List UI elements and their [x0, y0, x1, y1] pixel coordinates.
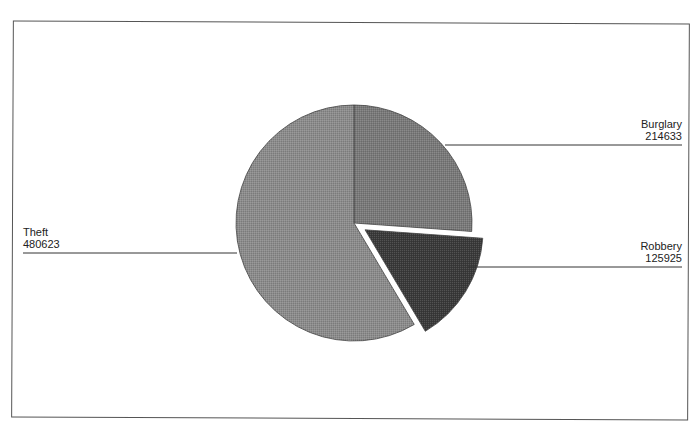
burglary-label-name: Burglary — [600, 118, 682, 130]
theft-label: Theft 480623 — [23, 226, 113, 250]
theft-label-name: Theft — [23, 226, 113, 238]
robbery-label-name: Robbery — [600, 240, 682, 252]
robbery-label: Robbery 125925 — [600, 240, 682, 264]
burglary-label: Burglary 214633 — [600, 118, 682, 142]
pie-slice-texture — [354, 105, 472, 231]
theft-label-value: 480623 — [23, 238, 113, 250]
pie-chart — [0, 0, 697, 434]
robbery-label-value: 125925 — [600, 252, 682, 264]
burglary-label-value: 214633 — [600, 130, 682, 142]
